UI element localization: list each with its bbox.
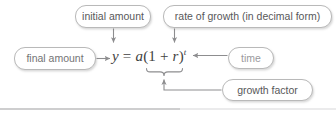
- callout-growth-factor[interactable]: growth factor: [222, 79, 313, 101]
- formula-exponent: t: [184, 47, 187, 57]
- formula-expression: y = a ( 1 + r ) t: [112, 48, 187, 68]
- callout-time[interactable]: time: [228, 47, 274, 69]
- diagram-canvas: initial amount rate of growth (in decima…: [0, 0, 336, 117]
- formula-coefficient: a: [135, 48, 143, 65]
- callout-final-amount-label: final amount: [26, 53, 83, 64]
- callout-rate-of-growth[interactable]: rate of growth (in decimal form): [163, 5, 332, 28]
- callout-final-amount[interactable]: final amount: [14, 47, 96, 70]
- underbrace-growth-factor: [147, 69, 183, 76]
- callout-rate-of-growth-label: rate of growth (in decimal form): [175, 11, 320, 22]
- formula-lhs: y: [112, 48, 119, 65]
- arrow-growth-factor-to-brace: [164, 80, 222, 91]
- callout-growth-factor-label: growth factor: [237, 85, 298, 96]
- callout-time-label: time: [241, 53, 261, 64]
- callout-initial-amount-label: initial amount: [82, 11, 144, 22]
- formula-one: 1: [148, 48, 156, 65]
- formula-plus: +: [156, 48, 173, 65]
- formula-equals: =: [119, 48, 136, 65]
- callout-initial-amount[interactable]: initial amount: [75, 5, 151, 28]
